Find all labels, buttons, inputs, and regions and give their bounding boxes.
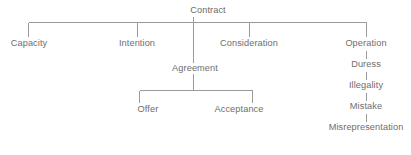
node-duress[interactable]: Duress [351, 59, 381, 70]
node-misrepresentation[interactable]: Misrepresentation [329, 122, 404, 133]
node-offer[interactable]: Offer [138, 104, 159, 115]
node-illegality[interactable]: Illegality [349, 80, 383, 91]
node-contract[interactable]: Contract [190, 5, 226, 16]
node-mistake[interactable]: Mistake [350, 101, 382, 112]
node-consideration[interactable]: Consideration [220, 38, 278, 49]
node-capacity[interactable]: Capacity [11, 38, 48, 49]
node-agreement[interactable]: Agreement [172, 63, 218, 74]
node-operation[interactable]: Operation [345, 38, 386, 49]
node-acceptance[interactable]: Acceptance [214, 104, 263, 115]
node-intention[interactable]: Intention [119, 38, 155, 49]
tree-diagram: Contract Capacity Intention Consideratio… [0, 0, 411, 155]
